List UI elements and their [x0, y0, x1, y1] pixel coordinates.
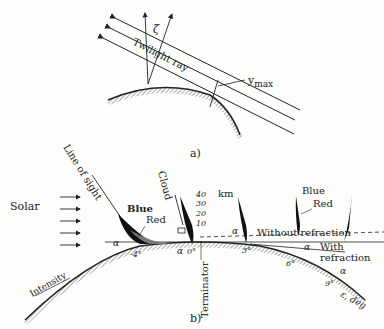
blue-label-1: Blue	[127, 203, 153, 214]
km-label: km	[218, 188, 234, 199]
deg-label: 0°	[187, 247, 196, 256]
cloud-label: Cloud	[156, 170, 174, 202]
with-refraction-label: With	[320, 241, 344, 252]
alpha-label: α	[232, 226, 238, 236]
panel-a: ζ Twilight ray ymax a)	[103, 13, 300, 160]
deg-label: -4°	[130, 250, 142, 259]
zeta-label: ζ	[153, 23, 160, 36]
twilight-diagram: ζ Twilight ray ymax a) Solar Line of sig…	[0, 0, 384, 329]
alpha-label: α	[340, 266, 346, 276]
alpha-label: α	[177, 246, 183, 256]
alpha-label: α	[304, 242, 310, 252]
deg-label: 3°	[242, 246, 251, 255]
panel-b: Solar Line of sight Blue Red α -4° Cloud…	[10, 142, 384, 325]
solar-arrows	[60, 197, 80, 245]
solar-label: Solar	[10, 200, 40, 213]
red-label-2: Red	[313, 198, 333, 209]
without-refraction-label: Without refraction	[257, 227, 351, 238]
altitude-20: 20	[195, 209, 206, 218]
deg-label: 6°	[286, 259, 295, 268]
alpha-label: α	[113, 238, 119, 248]
caption-b: b)	[190, 312, 201, 325]
intensity-label: Intensity	[28, 269, 69, 298]
altitude-40: 40	[195, 190, 206, 199]
deg-label: 9°	[325, 279, 334, 288]
caption-a: a)	[190, 147, 201, 160]
diagram-canvas: ζ Twilight ray ymax a) Solar Line of sig…	[0, 0, 384, 329]
ymax-label: ymax	[247, 74, 273, 89]
altitude-30: 30	[196, 199, 206, 208]
line-of-sight-label: Line of sight	[61, 142, 104, 202]
blue-label-2: Blue	[302, 185, 325, 196]
twilight-ray-label: Twilight ray	[131, 36, 191, 74]
red-label-1: Red	[146, 214, 166, 225]
altitude-10: 10	[196, 219, 206, 228]
with-refraction-label-2: refraction	[320, 252, 371, 263]
terminator-label: Terminator	[199, 261, 210, 318]
